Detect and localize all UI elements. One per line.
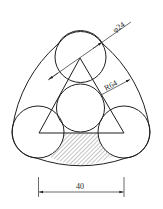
bottom-right-circle <box>98 106 150 158</box>
diameter-label: φ24 <box>111 20 127 35</box>
radius-label: R64 <box>103 79 119 93</box>
width-dimension: 40 <box>39 177 125 197</box>
center-circle <box>57 84 105 132</box>
diameter-dimension: φ24 <box>48 20 131 80</box>
bottom-left-circle <box>12 106 64 158</box>
width-label: 40 <box>76 182 84 191</box>
radius-dimension: R64 <box>101 79 130 95</box>
inscribed-triangle <box>39 58 124 133</box>
technical-drawing: φ24 R64 40 <box>0 0 163 209</box>
